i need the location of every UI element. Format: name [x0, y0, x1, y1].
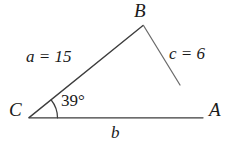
geometry-diagram-canvas: B C A a = 15 c = 6 b 39° — [0, 0, 243, 152]
vertex-label-b: B — [134, 1, 146, 20]
triangle-figure — [0, 0, 243, 152]
side-label-a: a = 15 — [26, 48, 71, 65]
side-label-b: b — [111, 124, 120, 141]
vertex-label-c: C — [9, 100, 22, 119]
side-a-line — [29, 26, 143, 118]
angle-label-c: 39° — [61, 92, 85, 109]
angle-arc-c — [51, 100, 57, 118]
vertex-label-a: A — [209, 100, 221, 119]
side-label-c: c = 6 — [169, 45, 205, 62]
